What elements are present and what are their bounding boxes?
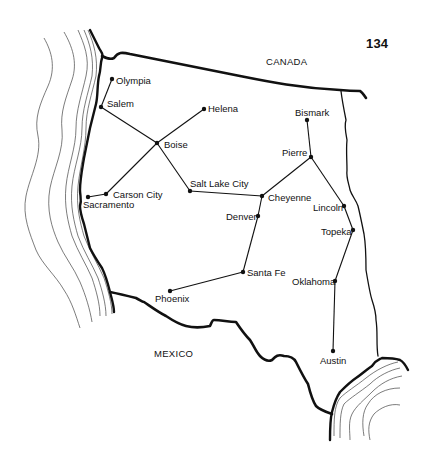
city-dot-carson-city <box>104 192 108 196</box>
city-label-oklahoma: Oklahoma <box>292 276 335 287</box>
route-boise-salt-lake-city <box>157 143 190 191</box>
route-salt-lake-city-cheyenne <box>190 191 262 196</box>
city-label-austin: Austin <box>320 355 346 366</box>
route-boise-helena <box>157 109 204 143</box>
page-number: 134 <box>366 36 388 51</box>
route-topeka-oklahoma <box>335 230 353 281</box>
route-boise-carson-city <box>106 143 157 194</box>
city-dot-salem <box>99 105 103 109</box>
route-carson-city-sacramento <box>88 194 106 197</box>
city-dot-olympia <box>110 77 114 81</box>
route-connections <box>88 79 353 351</box>
region-label-canada: CANADA <box>266 56 307 67</box>
city-label-sacramento: Sacramento <box>83 199 134 210</box>
city-label-bismark: Bismark <box>295 107 329 118</box>
gulf-contours <box>334 362 402 440</box>
route-oklahoma-austin <box>333 281 335 351</box>
city-label-phoenix: Phoenix <box>155 293 189 304</box>
route-cheyenne-denver <box>258 196 262 216</box>
route-pierre-lincoln <box>311 157 344 206</box>
city-label-cheyenne: Cheyenne <box>268 192 311 203</box>
city-dot-bismark <box>305 118 309 122</box>
city-label-pierre: Pierre <box>282 147 307 158</box>
us-border <box>80 30 408 440</box>
route-santa-fe-phoenix <box>170 272 243 291</box>
route-salem-boise <box>101 107 157 143</box>
city-label-salt-lake-city: Salt Lake City <box>190 178 249 189</box>
city-label-helena: Helena <box>208 103 238 114</box>
city-label-boise: Boise <box>164 139 188 150</box>
city-dot-pierre <box>309 155 313 159</box>
city-label-topeka: Topeka <box>321 226 352 237</box>
route-bismark-pierre <box>307 120 311 157</box>
city-label-lincoln: Lincoln <box>313 202 343 213</box>
western-us-map <box>0 0 433 464</box>
city-label-denver: Denver <box>226 211 257 222</box>
region-label-mexico: MEXICO <box>154 348 193 359</box>
city-dot-boise <box>155 141 159 145</box>
city-dot-helena <box>202 107 206 111</box>
city-dot-santa-fe <box>241 270 245 274</box>
city-dot-austin <box>331 349 335 353</box>
city-label-santa-fe: Santa Fe <box>247 267 286 278</box>
city-label-salem: Salem <box>107 98 134 109</box>
city-dot-salt-lake-city <box>188 189 192 193</box>
route-denver-santa-fe <box>243 216 258 272</box>
city-dot-cheyenne <box>260 194 264 198</box>
route-cheyenne-pierre <box>262 157 311 196</box>
city-label-olympia: Olympia <box>116 75 151 86</box>
city-markers <box>86 77 355 353</box>
